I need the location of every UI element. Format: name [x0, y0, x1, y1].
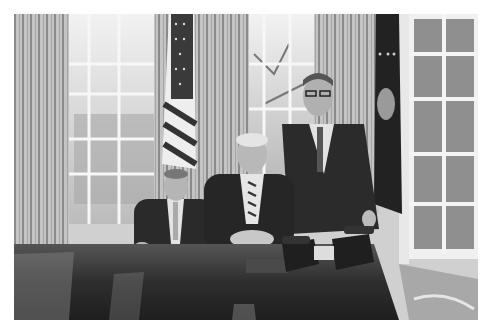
presidential-flag	[374, 14, 402, 214]
right-window	[399, 14, 478, 264]
left-curtain	[14, 14, 69, 254]
oval-office-photo	[14, 14, 478, 320]
left-window	[64, 14, 159, 224]
photo	[14, 14, 478, 320]
